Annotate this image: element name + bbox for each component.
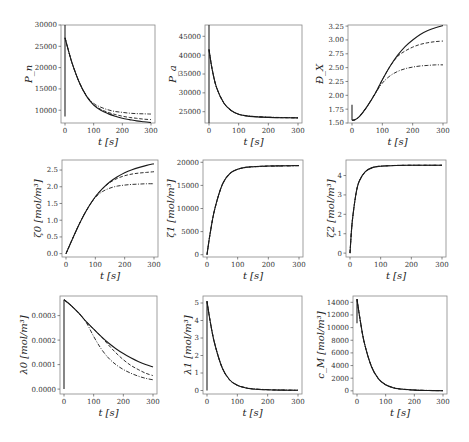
y-tick-label: 2.00 bbox=[328, 92, 344, 100]
x-tick-label: 300 bbox=[292, 261, 305, 269]
x-tick-label: 300 bbox=[291, 398, 304, 406]
y-axis-label: P_n bbox=[23, 65, 35, 84]
series-line-dash-dot bbox=[357, 299, 443, 390]
series-line-dashed bbox=[207, 301, 298, 390]
x-tick-label: 0 bbox=[350, 127, 354, 135]
y-tick-label: 25000 bbox=[35, 43, 57, 51]
y-tick-label: 3.00 bbox=[328, 36, 344, 44]
y-axis-label: P_a bbox=[167, 65, 179, 84]
x-tick-label: 100 bbox=[89, 261, 102, 269]
y-tick-label: 1.0 bbox=[47, 217, 58, 225]
x-tick-label: 300 bbox=[291, 127, 304, 135]
x-tick-label: 300 bbox=[144, 127, 157, 135]
y-tick-label: 1 bbox=[338, 230, 342, 238]
y-tick-label: 2000 bbox=[331, 375, 349, 383]
y-tick-label: 0.0000 bbox=[32, 386, 57, 394]
x-axis-label: t [s] bbox=[390, 407, 410, 418]
series-line-dash-dot bbox=[350, 165, 442, 253]
y-tick-label: 4000 bbox=[331, 362, 349, 370]
y-axis-label: λ0 [mol/m³] bbox=[18, 315, 29, 375]
y-tick-label: 0.0002 bbox=[32, 337, 57, 345]
y-axis-label: ζ0 [mol/m³] bbox=[32, 179, 43, 237]
x-tick-label: 0 bbox=[207, 127, 211, 135]
y-tick-label: 14000 bbox=[327, 299, 349, 307]
x-tick-label: 100 bbox=[376, 127, 389, 135]
y-tick-label: 0.5 bbox=[47, 233, 58, 241]
x-tick-label: 200 bbox=[117, 398, 130, 406]
series-line-dash-dot bbox=[65, 38, 151, 114]
series-line-solid bbox=[66, 164, 154, 254]
y-tick-label: 35000 bbox=[179, 70, 201, 78]
y-tick-label: 1.75 bbox=[328, 106, 344, 114]
y-axis-label: Đ_X bbox=[314, 63, 326, 85]
y-axis-label: c_M [mol/m³] bbox=[315, 311, 327, 378]
panel-row1-col1: 10000150002000025000300000100200300t [s]… bbox=[23, 21, 158, 147]
y-tick-label: 2.5 bbox=[47, 166, 58, 174]
x-tick-label: 100 bbox=[87, 398, 100, 406]
y-tick-label: 3 bbox=[195, 334, 199, 342]
x-tick-label: 300 bbox=[147, 261, 160, 269]
y-tick-label: 45000 bbox=[179, 33, 201, 41]
series-line-dash-dot bbox=[207, 301, 298, 390]
x-tick-label: 200 bbox=[408, 398, 421, 406]
x-tick-label: 0 bbox=[348, 261, 352, 269]
y-axis-label: λ1 [mol/m³] bbox=[182, 315, 193, 375]
y-tick-label: 5000 bbox=[181, 228, 199, 236]
x-tick-label: 200 bbox=[406, 127, 419, 135]
series-line-dashed bbox=[350, 165, 442, 253]
y-tick-label: 30000 bbox=[35, 21, 57, 29]
y-tick-label: 10000 bbox=[327, 324, 349, 332]
x-axis-label: t [s] bbox=[100, 270, 120, 281]
y-tick-label: 3.25 bbox=[328, 23, 344, 31]
y-tick-label: 2.75 bbox=[328, 50, 344, 58]
figure-caption bbox=[12, 436, 462, 442]
series-line-dash-dot bbox=[352, 65, 443, 120]
y-tick-label: 6000 bbox=[331, 349, 349, 357]
y-tick-label: 0.0003 bbox=[32, 312, 57, 320]
x-tick-label: 100 bbox=[379, 398, 392, 406]
y-tick-label: 4 bbox=[338, 172, 343, 180]
plot-frame bbox=[62, 160, 158, 257]
plot-frame bbox=[203, 160, 303, 257]
y-tick-label: 2.50 bbox=[328, 64, 344, 72]
series-line-dashed bbox=[207, 166, 299, 255]
y-tick-label: 0 bbox=[345, 387, 349, 395]
x-tick-label: 300 bbox=[436, 398, 449, 406]
x-tick-label: 0 bbox=[64, 261, 68, 269]
series-line-dashed bbox=[357, 299, 443, 391]
y-tick-label: 1 bbox=[195, 369, 199, 377]
x-tick-label: 300 bbox=[435, 261, 448, 269]
panel-row3-col1: 0.00000.00010.00020.00030100200300t [s]λ… bbox=[18, 296, 160, 418]
x-tick-label: 200 bbox=[262, 127, 275, 135]
x-tick-label: 100 bbox=[231, 261, 244, 269]
series-line-dash-dot bbox=[66, 184, 154, 254]
y-tick-label: 40000 bbox=[179, 52, 201, 60]
x-axis-label: t [s] bbox=[243, 136, 263, 147]
x-tick-label: 200 bbox=[262, 261, 275, 269]
plot-frame bbox=[348, 25, 447, 123]
y-tick-label: 30000 bbox=[179, 89, 201, 97]
y-tick-label: 2 bbox=[338, 211, 342, 219]
x-tick-label: 300 bbox=[146, 398, 159, 406]
x-axis-label: t [s] bbox=[387, 136, 407, 147]
plot-frame bbox=[205, 25, 302, 123]
x-axis-label: t [s] bbox=[98, 407, 118, 418]
panel-row3-col3: 0200040006000800010000120001400001002003… bbox=[315, 296, 450, 418]
series-line-dash-dot bbox=[209, 50, 298, 118]
x-tick-label: 0 bbox=[355, 398, 359, 406]
y-tick-label: 2.25 bbox=[328, 78, 344, 86]
x-tick-label: 300 bbox=[436, 127, 449, 135]
series-line-dashed bbox=[209, 50, 298, 118]
y-tick-label: 15000 bbox=[177, 182, 199, 190]
y-tick-label: 0 bbox=[338, 250, 342, 258]
y-tick-label: 20000 bbox=[177, 159, 199, 167]
series-line-solid bbox=[207, 301, 298, 390]
figure-grid: 10000150002000025000300000100200300t [s]… bbox=[0, 0, 469, 442]
x-tick-label: 100 bbox=[87, 127, 100, 135]
panel-row1-col2: 25000300003500040000450000100200300t [s]… bbox=[167, 25, 305, 147]
x-tick-label: 200 bbox=[405, 261, 418, 269]
x-tick-label: 0 bbox=[205, 398, 209, 406]
x-axis-label: t [s] bbox=[243, 270, 263, 281]
plot-frame bbox=[353, 296, 447, 394]
panel-row3-col2: 0123450100200300t [s]λ1 [mol/m³] bbox=[182, 296, 305, 418]
